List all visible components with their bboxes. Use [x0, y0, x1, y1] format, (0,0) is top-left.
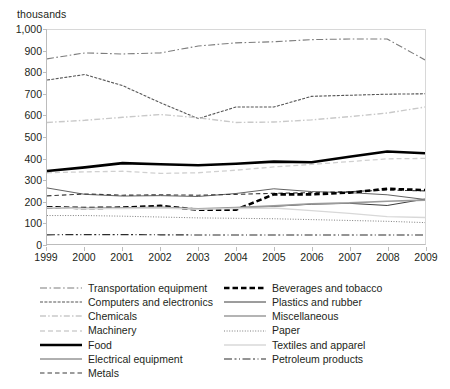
y-axis-unit-label: thousands	[17, 8, 66, 20]
legend-item[interactable]: Paper	[224, 324, 440, 338]
legend-item[interactable]: Computers and electronics	[40, 295, 230, 309]
legend-line-swatch	[40, 353, 82, 365]
y-axis-tick-label: 600	[2, 110, 42, 121]
legend-line-swatch	[40, 310, 82, 322]
x-axis-tick-label: 2005	[262, 252, 285, 263]
x-axis-tick-mark	[198, 247, 199, 251]
y-axis-tick-label: 900	[2, 45, 42, 56]
series-line	[47, 75, 425, 119]
legend-item[interactable]: Metals	[40, 366, 230, 380]
legend-item-label: Beverages and tobacco	[272, 283, 382, 294]
legend-item[interactable]: Food	[40, 338, 230, 352]
y-axis: 01002003004005006007008009001,000	[0, 29, 42, 245]
x-axis-tick-label: 2007	[338, 252, 361, 263]
legend-item-label: Computers and electronics	[88, 297, 213, 308]
x-axis-tick-label: 2002	[148, 252, 171, 263]
legend-line-swatch	[40, 325, 82, 337]
legend-item[interactable]: Plastics and rubber	[224, 295, 440, 309]
y-axis-tick-mark	[43, 223, 47, 224]
legend-column-right: Beverages and tobaccoPlastics and rubber…	[224, 281, 440, 366]
legend-item[interactable]: Miscellaneous	[224, 309, 440, 323]
legend-item-label: Electrical equipment	[88, 354, 183, 365]
y-axis-tick-mark	[43, 72, 47, 73]
x-axis-tick-label: 2006	[300, 252, 323, 263]
y-axis-tick-mark	[43, 51, 47, 52]
x-axis-tick-mark	[426, 247, 427, 251]
legend-line-swatch	[224, 296, 266, 308]
plot-area	[46, 29, 426, 245]
series-line	[47, 39, 425, 60]
legend-item-label: Metals	[88, 368, 119, 379]
legend-line-swatch	[224, 282, 266, 294]
chart-legend: Transportation equipmentComputers and el…	[40, 281, 440, 386]
y-axis-tick-label: 100	[2, 218, 42, 229]
x-axis-tick-label: 2000	[72, 252, 95, 263]
y-axis-tick-label: 400	[2, 153, 42, 164]
x-axis-tick-mark	[236, 247, 237, 251]
y-axis-tick-label: 300	[2, 175, 42, 186]
x-axis-tick-mark	[350, 247, 351, 251]
y-axis-tick-label: 1,000	[2, 24, 42, 35]
y-axis-tick-mark	[43, 94, 47, 95]
series-line	[47, 189, 425, 210]
x-axis-tick-mark	[388, 247, 389, 251]
x-axis-tick-label: 2004	[224, 252, 247, 263]
x-axis-tick-mark	[122, 247, 123, 251]
y-axis-tick-mark	[43, 245, 47, 246]
y-axis-tick-label: 500	[2, 132, 42, 143]
y-axis-tick-mark	[43, 29, 47, 30]
legend-item-label: Food	[88, 340, 112, 351]
x-axis-tick-label: 1999	[34, 252, 57, 263]
legend-line-swatch	[40, 296, 82, 308]
y-axis-tick-label: 700	[2, 89, 42, 100]
y-axis-tick-label: 200	[2, 197, 42, 208]
legend-item[interactable]: Chemicals	[40, 309, 230, 323]
legend-item[interactable]: Transportation equipment	[40, 281, 230, 295]
legend-line-swatch	[40, 367, 82, 379]
legend-line-swatch	[224, 325, 266, 337]
y-axis-tick-mark	[43, 115, 47, 116]
legend-item-label: Petroleum products	[272, 354, 363, 365]
legend-item-label: Machinery	[88, 325, 136, 336]
y-axis-tick-mark	[43, 202, 47, 203]
legend-item-label: Chemicals	[88, 311, 137, 322]
legend-item-label: Textiles and apparel	[272, 340, 365, 351]
y-axis-tick-mark	[43, 137, 47, 138]
y-axis-tick-mark	[43, 159, 47, 160]
y-axis-tick-label: 0	[2, 240, 42, 251]
plot-lines	[47, 30, 425, 244]
x-axis-tick-mark	[84, 247, 85, 251]
line-chart-figure: thousands 01002003004005006007008009001,…	[0, 0, 450, 389]
legend-line-swatch	[224, 310, 266, 322]
x-axis-tick-mark	[274, 247, 275, 251]
x-axis-tick-mark	[312, 247, 313, 251]
series-line	[47, 152, 425, 171]
legend-line-swatch	[224, 353, 266, 365]
legend-item[interactable]: Petroleum products	[224, 352, 440, 366]
legend-item[interactable]: Beverages and tobacco	[224, 281, 440, 295]
legend-item-label: Transportation equipment	[88, 283, 207, 294]
legend-line-swatch	[40, 282, 82, 294]
x-axis-tick-label: 2003	[186, 252, 209, 263]
legend-item[interactable]: Electrical equipment	[40, 352, 230, 366]
legend-line-swatch	[224, 339, 266, 351]
x-axis-tick-label: 2009	[414, 252, 437, 263]
series-line	[47, 107, 425, 122]
y-axis-tick-label: 800	[2, 67, 42, 78]
legend-line-swatch	[40, 339, 82, 351]
series-line	[47, 216, 425, 223]
legend-item[interactable]: Textiles and apparel	[224, 338, 440, 352]
x-axis-tick-mark	[160, 247, 161, 251]
series-line	[47, 208, 425, 218]
legend-item[interactable]: Machinery	[40, 324, 230, 338]
y-axis-tick-mark	[43, 180, 47, 181]
legend-item-label: Paper	[272, 325, 300, 336]
legend-item-label: Miscellaneous	[272, 311, 339, 322]
legend-item-label: Plastics and rubber	[272, 297, 362, 308]
x-axis-tick-label: 2001	[110, 252, 133, 263]
x-axis: 1999200020012002200320042005200620072008…	[46, 247, 426, 267]
legend-column-left: Transportation equipmentComputers and el…	[40, 281, 230, 380]
x-axis-tick-mark	[46, 247, 47, 251]
x-axis-tick-label: 2008	[376, 252, 399, 263]
